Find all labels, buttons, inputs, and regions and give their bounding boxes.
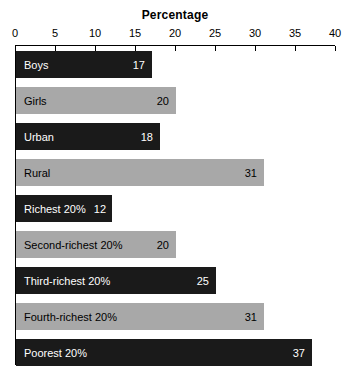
bar-label: Richest 20% [24, 203, 86, 215]
x-axis-tick-label: 15 [129, 27, 141, 39]
x-axis-tick-mark [215, 46, 216, 51]
x-axis-tick-label: 5 [52, 27, 58, 39]
bar-row: Fourth-richest 20%31 [0, 303, 343, 339]
x-axis-tick-labels: 0510152025303540 [0, 27, 343, 47]
bar-value: 18 [141, 131, 153, 143]
x-axis-tick-mark [335, 46, 336, 51]
bar-value: 20 [157, 239, 169, 251]
bar-row: Second-richest 20%20 [0, 231, 343, 267]
bars-container: Boys17Girls20Urban18Rural31Richest 20%12… [0, 51, 343, 375]
bar-row: Third-richest 20%25 [0, 267, 343, 303]
bar-label: Third-richest 20% [24, 275, 110, 287]
bar-value: 17 [133, 59, 145, 71]
x-axis-tick-mark [295, 46, 296, 51]
bar-chart: Percentage 0510152025303540 Boys17Girls2… [0, 0, 343, 381]
bar[interactable]: Second-richest 20%20 [16, 231, 176, 258]
chart-title: Percentage [15, 8, 335, 22]
bar-value: 31 [245, 167, 257, 179]
bar-value: 12 [94, 203, 106, 215]
bar-value: 37 [293, 347, 305, 359]
bar-value: 25 [197, 275, 209, 287]
bar[interactable]: Rural31 [16, 159, 264, 186]
bar-label: Poorest 20% [24, 347, 87, 359]
bar-label: Second-richest 20% [24, 239, 122, 251]
x-axis-tick-mark [55, 46, 56, 51]
bar[interactable]: Fourth-richest 20%31 [16, 303, 264, 330]
bar-row: Rural31 [0, 159, 343, 195]
x-axis-tick-label: 0 [12, 27, 18, 39]
x-axis-tick-mark [15, 46, 16, 51]
x-axis-tick-mark [175, 46, 176, 51]
bar[interactable]: Boys17 [16, 51, 152, 78]
bar-value: 31 [245, 311, 257, 323]
bar-row: Richest 20%12 [0, 195, 343, 231]
bar-label: Urban [24, 131, 54, 143]
bar-row: Girls20 [0, 87, 343, 123]
x-axis-tick-label: 35 [289, 27, 301, 39]
x-axis-tick-label: 20 [169, 27, 181, 39]
x-axis-tick-label: 40 [329, 27, 341, 39]
bar[interactable]: Poorest 20%37 [16, 339, 312, 366]
bar-row: Poorest 20%37 [0, 339, 343, 375]
bar-label: Fourth-richest 20% [24, 311, 117, 323]
bar[interactable]: Richest 20%12 [16, 195, 112, 222]
x-axis-tick-label: 30 [249, 27, 261, 39]
x-axis-tick-label: 10 [89, 27, 101, 39]
bar[interactable]: Third-richest 20%25 [16, 267, 216, 294]
bar-value: 20 [157, 95, 169, 107]
bar-label: Girls [24, 95, 47, 107]
x-axis-tick-mark [95, 46, 96, 51]
bar-label: Boys [24, 59, 48, 71]
x-axis-tick-mark [135, 46, 136, 51]
x-axis-tick-mark [255, 46, 256, 51]
x-axis-tick-label: 25 [209, 27, 221, 39]
bar-row: Urban18 [0, 123, 343, 159]
bar[interactable]: Urban18 [16, 123, 160, 150]
bar-row: Boys17 [0, 51, 343, 87]
bar-label: Rural [24, 167, 50, 179]
bar[interactable]: Girls20 [16, 87, 176, 114]
